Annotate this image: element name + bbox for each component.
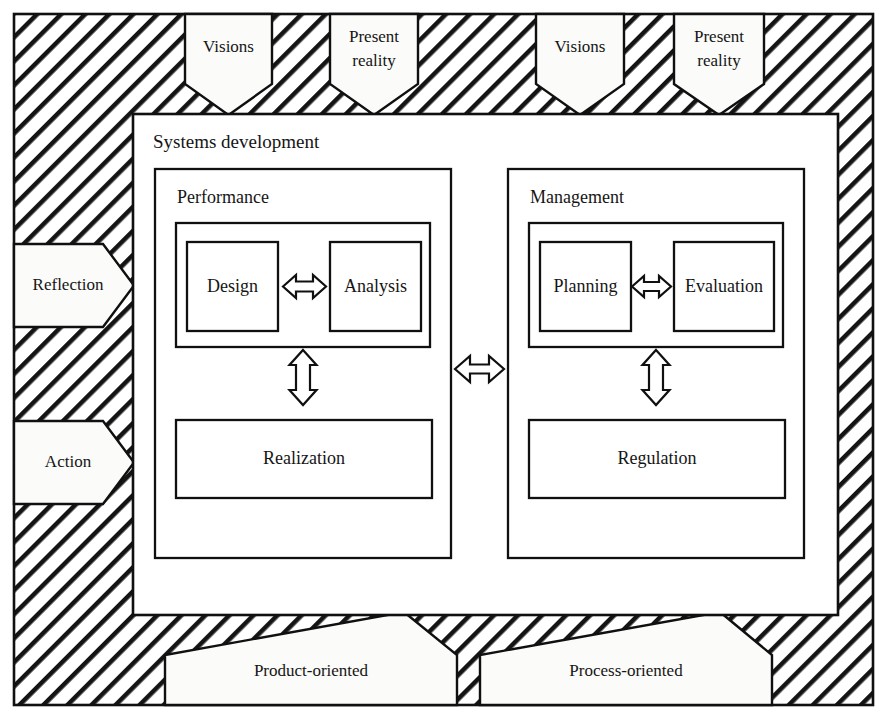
top-arrow-label-line1: Present bbox=[349, 27, 399, 46]
analysis-label: Analysis bbox=[344, 276, 407, 296]
top-arrow-label: Visions bbox=[203, 37, 254, 56]
top-arrow-label-line1: Present bbox=[694, 27, 744, 46]
left-arrow-label: Action bbox=[45, 452, 92, 471]
top-arrow-label-line2: reality bbox=[697, 51, 741, 70]
page-title: Systems development bbox=[153, 131, 320, 152]
management-heading: Management bbox=[530, 187, 624, 207]
planning-label: Planning bbox=[553, 276, 617, 296]
performance-heading: Performance bbox=[177, 187, 269, 207]
bottom-arrow-label: Product-oriented bbox=[254, 661, 369, 680]
systems-development-diagram: Visions Present reality Visions Present … bbox=[0, 0, 886, 724]
performance-column: Performance Design Analysis Realization bbox=[155, 169, 451, 558]
evaluation-label: Evaluation bbox=[685, 276, 763, 296]
diagram-canvas: Visions Present reality Visions Present … bbox=[0, 0, 886, 724]
realization-label: Realization bbox=[263, 448, 345, 468]
management-column: Management Planning Evaluation Regulatio… bbox=[508, 169, 804, 558]
bottom-arrow-label: Process-oriented bbox=[569, 661, 683, 680]
left-arrow-label: Reflection bbox=[33, 275, 104, 294]
regulation-label: Regulation bbox=[618, 448, 697, 468]
top-arrow-label: Visions bbox=[555, 37, 606, 56]
top-arrow-label-line2: reality bbox=[352, 51, 396, 70]
design-label: Design bbox=[207, 276, 258, 296]
